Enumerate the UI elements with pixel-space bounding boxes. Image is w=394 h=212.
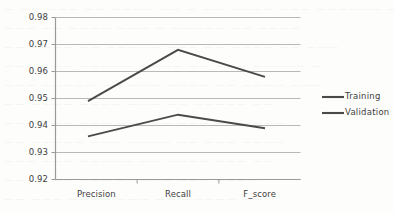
y-tick-label-0.97: 0.97 [14, 39, 48, 49]
series-line-validation [88, 50, 265, 101]
y-tick-label-0.96: 0.96 [14, 66, 48, 76]
legend-label-training: Training [345, 91, 381, 101]
y-tick-label-0.93: 0.93 [14, 147, 48, 157]
x-axis-tick-marks [137, 180, 219, 184]
legend-label-validation: Validation [345, 107, 389, 117]
x-category-label-recall: Recall [138, 189, 218, 199]
y-tick-label-0.95: 0.95 [14, 93, 48, 103]
line-chart-plot [0, 0, 394, 212]
legend-line-swatches [322, 97, 344, 113]
y-tick-label-0.94: 0.94 [14, 120, 48, 130]
y-tick-label-0.92: 0.92 [14, 174, 48, 184]
data-series-lines [88, 50, 265, 136]
chart-container: — —— ——— —— ———— —— — —— ———— ——— ——————… [0, 0, 394, 212]
y-tick-label-0.98: 0.98 [14, 12, 48, 22]
x-category-label-f_score: F_score [220, 189, 300, 199]
x-category-label-precision: Precision [56, 189, 136, 199]
